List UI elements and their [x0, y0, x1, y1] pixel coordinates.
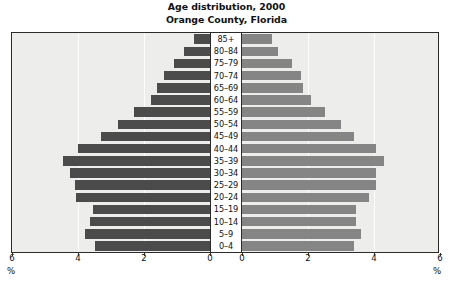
bar-row-male — [12, 179, 210, 191]
bar-female-60–64 — [242, 95, 311, 105]
bar-row-female — [242, 216, 440, 228]
age-group-label: 10–14 — [211, 216, 241, 228]
x-tickmark-left-0 — [210, 253, 211, 256]
bar-male-75–79 — [174, 59, 210, 69]
bar-male-30–34 — [70, 168, 210, 178]
x-tickmark-left-4 — [78, 253, 79, 256]
bar-male-5–9 — [85, 229, 210, 239]
age-group-label: 15–19 — [211, 203, 241, 215]
bar-female-20–24 — [242, 193, 369, 203]
bar-male-55–59 — [134, 107, 210, 117]
bar-male-10–14 — [90, 217, 210, 227]
bar-male-65–69 — [157, 83, 210, 93]
bar-female-10–14 — [242, 217, 356, 227]
bar-male-15–19 — [93, 205, 210, 215]
chart-title: Age distribution, 2000 — [0, 1, 453, 14]
bar-male-25–29 — [75, 180, 210, 190]
bar-row-male — [12, 228, 210, 240]
bar-row-male — [12, 57, 210, 69]
bar-female-55–59 — [242, 107, 325, 117]
bar-row-male — [12, 203, 210, 215]
x-tickmark-left-2 — [144, 253, 145, 256]
bar-male-85+ — [194, 34, 211, 44]
bar-female-45–49 — [242, 132, 354, 142]
bar-male-80–84 — [184, 47, 210, 57]
bar-female-85+ — [242, 34, 272, 44]
age-group-label: 25–29 — [211, 179, 241, 191]
bar-row-male — [12, 143, 210, 155]
bar-row-male — [12, 167, 210, 179]
x-tickmark-right-2 — [308, 253, 309, 256]
age-group-label: 35–39 — [211, 155, 241, 167]
male-panel — [12, 33, 210, 252]
age-group-label: 5–9 — [211, 228, 241, 240]
bar-row-female — [242, 45, 440, 57]
bar-row-female — [242, 82, 440, 94]
bar-male-45–49 — [101, 132, 210, 142]
age-label-strip: 85+80–8475–7970–7465–6960–6455–5950–5445… — [210, 33, 242, 252]
bar-female-35–39 — [242, 156, 384, 166]
age-group-label: 75–79 — [211, 57, 241, 69]
bar-row-male — [12, 240, 210, 252]
bar-female-30–34 — [242, 168, 376, 178]
age-group-label: 0–4 — [211, 240, 241, 252]
bar-row-male — [12, 94, 210, 106]
age-group-label: 45–49 — [211, 130, 241, 142]
bar-male-35–39 — [63, 156, 210, 166]
female-panel — [242, 33, 440, 252]
bar-row-male — [12, 45, 210, 57]
bar-row-male — [12, 33, 210, 45]
bar-row-female — [242, 70, 440, 82]
bar-row-female — [242, 167, 440, 179]
age-group-label: 65–69 — [211, 82, 241, 94]
bar-row-female — [242, 94, 440, 106]
bar-male-50–54 — [118, 120, 210, 130]
x-axis-unit-right: % — [433, 266, 441, 276]
bar-row-female — [242, 155, 440, 167]
bar-row-female — [242, 240, 440, 252]
x-tickmark-right-6 — [440, 253, 441, 256]
bar-male-20–24 — [76, 193, 210, 203]
bar-female-40–44 — [242, 144, 376, 154]
bar-row-female — [242, 130, 440, 142]
age-group-label: 70–74 — [211, 70, 241, 82]
x-tickmark-left-6 — [12, 253, 13, 256]
bar-row-male — [12, 82, 210, 94]
age-group-label: 50–54 — [211, 118, 241, 130]
chart-title-block: Age distribution, 2000 Orange County, Fl… — [0, 1, 453, 26]
bar-female-0–4 — [242, 241, 354, 251]
plot-area: 85+80–8475–7970–7465–6960–6455–5950–5445… — [11, 32, 439, 253]
bar-female-25–29 — [242, 180, 376, 190]
age-group-label: 80–84 — [211, 45, 241, 57]
bar-row-male — [12, 118, 210, 130]
age-group-label: 85+ — [211, 33, 241, 45]
bar-row-female — [242, 191, 440, 203]
chart-subtitle: Orange County, Florida — [0, 14, 453, 27]
bar-male-40–44 — [78, 144, 210, 154]
bar-female-70–74 — [242, 71, 301, 81]
bar-row-female — [242, 33, 440, 45]
bar-row-male — [12, 155, 210, 167]
bar-row-female — [242, 203, 440, 215]
population-pyramid-figure: Age distribution, 2000 Orange County, Fl… — [0, 0, 453, 288]
x-tickmark-right-4 — [374, 253, 375, 256]
bar-male-70–74 — [164, 71, 210, 81]
age-group-label: 55–59 — [211, 106, 241, 118]
bar-row-female — [242, 106, 440, 118]
bar-female-65–69 — [242, 83, 303, 93]
bar-female-75–79 — [242, 59, 292, 69]
bar-row-male — [12, 191, 210, 203]
bar-row-female — [242, 118, 440, 130]
bar-row-female — [242, 228, 440, 240]
bar-row-female — [242, 57, 440, 69]
age-group-label: 20–24 — [211, 191, 241, 203]
x-axis-unit-left: % — [7, 266, 15, 276]
bar-row-male — [12, 70, 210, 82]
bar-row-female — [242, 179, 440, 191]
bar-row-female — [242, 143, 440, 155]
bar-row-male — [12, 106, 210, 118]
bar-female-50–54 — [242, 120, 341, 130]
bar-row-male — [12, 216, 210, 228]
age-group-label: 60–64 — [211, 94, 241, 106]
x-tickmark-right-0 — [242, 253, 243, 256]
